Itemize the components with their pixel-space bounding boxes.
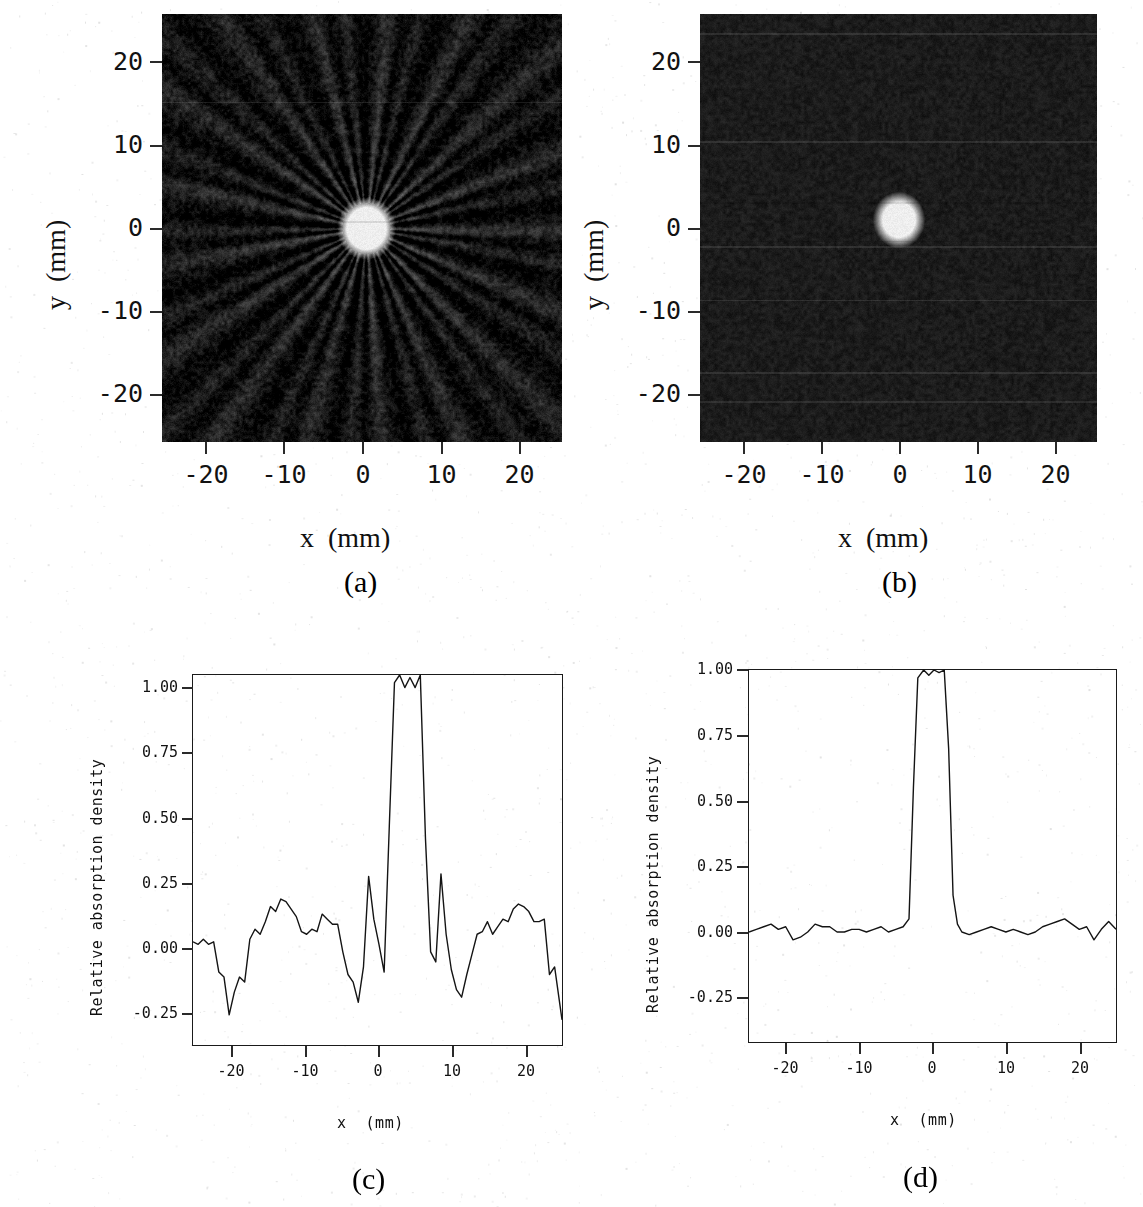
panel-d-xtick-mark bbox=[785, 1043, 787, 1054]
panel-d-xtick-mark bbox=[859, 1043, 861, 1054]
panel-d-xtick-label: 0 bbox=[912, 1061, 952, 1076]
panel-d-xtick-label: -20 bbox=[760, 1061, 810, 1076]
panel-d-xtick-label: 10 bbox=[986, 1061, 1026, 1076]
panel-d-ytick-label: 0.75 bbox=[661, 728, 733, 743]
panel-d-ytick-label: -0.25 bbox=[661, 990, 733, 1005]
panel-d-curve bbox=[0, 0, 1143, 1207]
panel-d-xlabel: x (mm) bbox=[890, 1111, 957, 1129]
panel-d-ytick-label: 0.50 bbox=[661, 794, 733, 809]
panel-d-xtick-label: 20 bbox=[1060, 1061, 1100, 1076]
panel-d-ytick-mark bbox=[737, 735, 748, 737]
panel-d-ytick-mark bbox=[737, 932, 748, 934]
panel-d-ytick-mark bbox=[737, 997, 748, 999]
panel-d-ylabel: Relative absorption density bbox=[644, 756, 662, 1013]
panel-d-caption: (d) bbox=[903, 1160, 938, 1194]
panel-d-xtick-mark bbox=[932, 1043, 934, 1054]
panel-d-ytick-mark bbox=[737, 866, 748, 868]
panel-d-ytick-label: 1.00 bbox=[661, 662, 733, 677]
panel-d-ytick-label: 0.25 bbox=[661, 859, 733, 874]
panel-d-xtick-label: -10 bbox=[834, 1061, 884, 1076]
panel-d-xtick-mark bbox=[1080, 1043, 1082, 1054]
panel-d-ytick-mark bbox=[737, 801, 748, 803]
panel-d-xtick-mark bbox=[1006, 1043, 1008, 1054]
panel-d-ytick-label: 0.00 bbox=[661, 925, 733, 940]
figure-container: 20 10 0 -10 -20 -20 -10 0 10 20 y (mm) x… bbox=[0, 0, 1143, 1207]
panel-d-ytick-mark bbox=[737, 669, 748, 671]
